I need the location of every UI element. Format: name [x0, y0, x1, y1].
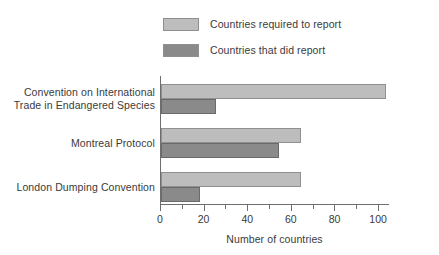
category-label: Convention on InternationalTrade in Enda… [3, 86, 155, 112]
chart-legend: Countries required to report Countries t… [163, 14, 423, 66]
category-label-line: Montreal Protocol [3, 137, 155, 150]
category-label: Montreal Protocol [3, 137, 155, 150]
bar-did-report [161, 99, 216, 114]
x-tick-label: 80 [329, 213, 341, 225]
category-label: London Dumping Convention [3, 181, 155, 194]
x-tick-label: 40 [241, 213, 253, 225]
x-tick-major [160, 205, 161, 211]
x-axis-title: Number of countries [160, 233, 389, 245]
x-tick-label: 20 [198, 213, 210, 225]
bar-did-report [161, 143, 279, 158]
legend-item-required: Countries required to report [163, 14, 423, 34]
x-tick-label: 0 [157, 213, 163, 225]
legend-label-required: Countries required to report [210, 18, 341, 30]
bar-required-to-report [161, 128, 301, 143]
x-tick-major [291, 205, 292, 211]
plot-area [160, 76, 389, 204]
x-tick-minor [313, 205, 314, 209]
x-tick-major [378, 205, 379, 211]
x-tick-major [334, 205, 335, 211]
x-tick-label: 60 [285, 213, 297, 225]
x-tick-major [204, 205, 205, 211]
x-tick-minor [356, 205, 357, 209]
category-label-line: Convention on International [3, 86, 155, 99]
x-tick-minor [269, 205, 270, 209]
bar-required-to-report [161, 172, 301, 187]
legend-label-did-report: Countries that did report [210, 44, 325, 56]
legend-swatch-required [163, 18, 199, 31]
x-tick-label: 100 [369, 213, 387, 225]
bar-chart-figure: Countries required to report Countries t… [0, 0, 439, 255]
legend-item-did-report: Countries that did report [163, 40, 423, 60]
category-label-line: London Dumping Convention [3, 181, 155, 194]
x-tick-minor [182, 205, 183, 209]
bar-required-to-report [161, 84, 386, 99]
category-axis-labels: Convention on InternationalTrade in Enda… [0, 76, 155, 204]
x-axis-ticks [160, 205, 389, 212]
bar-did-report [161, 187, 200, 202]
legend-swatch-did-report [163, 44, 199, 57]
x-axis-tick-labels: 020406080100 [0, 213, 439, 227]
x-tick-minor [225, 205, 226, 209]
x-tick-major [247, 205, 248, 211]
category-label-line: Trade in Endangered Species [3, 99, 155, 112]
